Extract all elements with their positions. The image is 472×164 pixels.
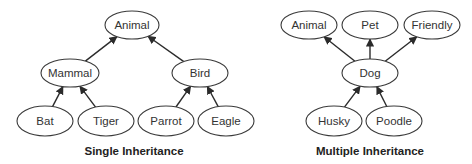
- inheritance-arrow-husky-to-dog: [344, 86, 360, 107]
- inheritance-arrow-eagle-to-bird: [207, 87, 218, 107]
- inheritance-arrow-bat-to-mammal: [53, 87, 63, 107]
- class-node-animal: Animal: [105, 11, 159, 39]
- class-node-friendly: Friendly: [404, 11, 460, 39]
- inheritance-arrow-mammal-to-animal: [85, 37, 117, 61]
- single-inheritance-diagram: AnimalMammalBirdBatTigerParrotEagleSingl…: [17, 11, 254, 157]
- class-node-pet: Pet: [342, 11, 398, 39]
- inheritance-arrow-dog-to-friendly: [385, 37, 417, 61]
- node-label: Friendly: [412, 19, 453, 31]
- node-label: Husky: [318, 115, 350, 127]
- inheritance-diagram-canvas: AnimalMammalBirdBatTigerParrotEagleSingl…: [0, 0, 472, 164]
- inheritance-arrow-poodle-to-dog: [377, 87, 387, 107]
- node-label: Pet: [361, 19, 379, 31]
- node-label: Dog: [359, 67, 380, 79]
- inheritance-arrow-parrot-to-bird: [176, 86, 191, 107]
- class-node-bat: Bat: [17, 106, 73, 136]
- inheritance-arrow-bird-to-animal: [148, 36, 184, 61]
- inheritance-arrow-tiger-to-mammal: [80, 86, 96, 107]
- node-label: Bird: [190, 67, 210, 79]
- diagram-caption: Single Inheritance: [84, 145, 183, 157]
- node-label: Mammal: [48, 67, 92, 79]
- diagram-caption: Multiple Inheritance: [316, 145, 424, 157]
- class-node-dog: Dog: [342, 59, 398, 87]
- node-label: Tiger: [93, 115, 119, 127]
- node-label: Animal: [114, 19, 149, 31]
- class-node-husky: Husky: [306, 106, 362, 136]
- class-node-animal2: Animal: [281, 11, 337, 39]
- multiple-inheritance-diagram: AnimalPetFriendlyDogHuskyPoodleMultiple …: [281, 11, 460, 157]
- class-node-parrot: Parrot: [138, 106, 194, 136]
- class-node-poodle: Poodle: [366, 106, 422, 136]
- node-label: Animal: [291, 19, 326, 31]
- inheritance-arrow-dog-to-animal2: [324, 37, 355, 61]
- class-node-bird: Bird: [172, 59, 228, 87]
- node-label: Poodle: [376, 115, 412, 127]
- class-node-eagle: Eagle: [198, 106, 254, 136]
- node-label: Eagle: [211, 115, 240, 127]
- class-node-mammal: Mammal: [41, 59, 99, 87]
- node-label: Bat: [36, 115, 54, 127]
- node-label: Parrot: [150, 115, 182, 127]
- class-node-tiger: Tiger: [78, 106, 134, 136]
